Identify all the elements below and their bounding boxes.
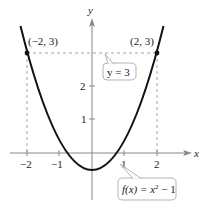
point-neg2-3	[25, 51, 30, 56]
tick-label-x-neg1: −1	[51, 158, 63, 170]
callout-function: f(x) = x2 − 1	[118, 164, 176, 200]
tick-label-y-2: 2	[80, 80, 86, 92]
x-axis-label: x	[193, 147, 199, 159]
point-label-left: (−2, 3)	[28, 35, 58, 48]
tick-label-y-1: 1	[81, 113, 87, 125]
callout-y3: y = 3	[103, 54, 136, 80]
callout-y3-text: y = 3	[107, 66, 130, 78]
point-2-3	[155, 51, 160, 56]
callout-function-text: f(x) = x2 − 1	[122, 183, 176, 196]
parabola-graph: x y −2 −1 1 2 2 1 (−2, 3) (2, 3) y = 3 f…	[0, 0, 206, 211]
point-label-right: (2, 3)	[130, 35, 154, 48]
axes	[10, 22, 188, 200]
tick-label-x-neg2: −2	[20, 158, 32, 170]
y-axis-label: y	[87, 4, 93, 16]
tick-label-x-2: 2	[154, 158, 160, 170]
